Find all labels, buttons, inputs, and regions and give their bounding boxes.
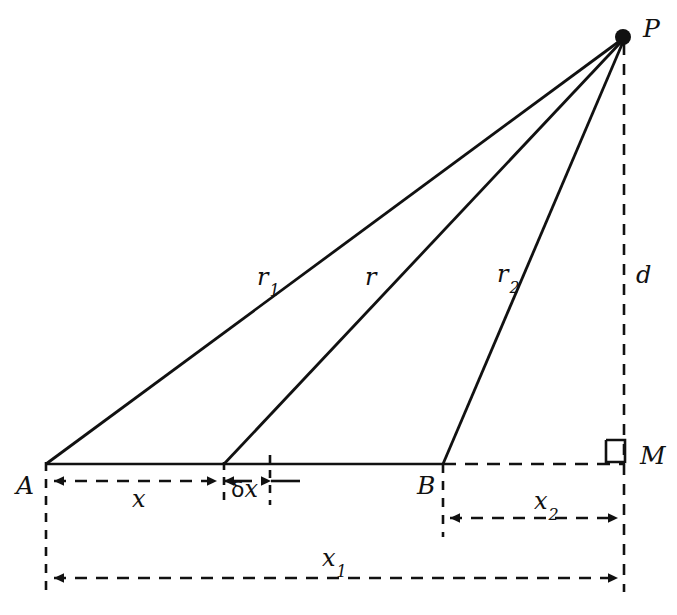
geometry-diagram: A B M P r1 r r2 d x δx x2 x1 xyxy=(0,0,677,615)
segment-label-r1-subscript: 1 xyxy=(269,281,279,300)
point-label-B: B xyxy=(417,473,435,498)
dimension-label-x2: x2 xyxy=(534,489,558,518)
segment-label-r2-base: r xyxy=(497,260,508,288)
right-angle-mark xyxy=(606,440,625,462)
dimension-label-deltax-base: x xyxy=(244,475,258,503)
dimension-label-x1-base: x xyxy=(322,544,336,572)
segment-label-r2-subscript: 2 xyxy=(509,278,519,297)
diagram-canvas xyxy=(0,0,677,615)
delta-symbol: δ xyxy=(231,477,244,502)
segment-label-d-base: d xyxy=(636,261,651,289)
segment-label-d: d xyxy=(636,263,651,287)
dimension-label-x2-base: x xyxy=(534,487,548,515)
segment-label-r1: r1 xyxy=(257,265,279,294)
dimension-label-x-base: x xyxy=(132,485,146,513)
segment-label-r2: r2 xyxy=(497,262,519,291)
dimension-label-x1-subscript: 1 xyxy=(337,562,347,581)
point-label-P: P xyxy=(643,16,660,41)
ray-r xyxy=(224,41,622,464)
point-P-dot xyxy=(615,29,631,45)
dimension-label-x2-subscript: 2 xyxy=(549,505,559,524)
dimension-label-x: x xyxy=(132,487,146,511)
segment-label-r: r xyxy=(365,265,376,289)
point-label-A: A xyxy=(16,473,34,498)
dimension-label-x1: x1 xyxy=(322,546,346,575)
point-label-M: M xyxy=(640,443,666,468)
segment-label-r1-base: r xyxy=(257,263,268,291)
dimension-label-deltax: δx xyxy=(231,477,258,501)
segment-label-r-base: r xyxy=(365,263,376,291)
